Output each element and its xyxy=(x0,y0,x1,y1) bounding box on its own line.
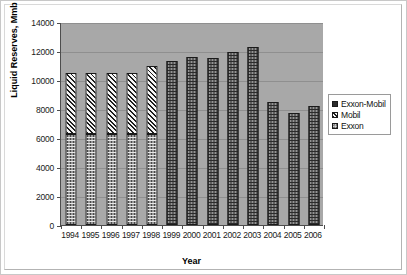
bar-slot xyxy=(203,23,223,225)
y-axis-tick-label: 12000 xyxy=(31,47,54,57)
x-axis-tick-label: 2006 xyxy=(304,230,322,240)
x-axis-tick xyxy=(223,225,224,229)
x-axis-tick xyxy=(142,225,143,229)
x-axis-tick xyxy=(122,225,123,229)
bar[interactable] xyxy=(207,58,218,225)
x-axis-tick xyxy=(101,225,102,229)
x-axis-tick-label: 1999 xyxy=(162,230,180,240)
x-axis-tick-label: 2005 xyxy=(284,230,302,240)
y-axis-tick-label: 10000 xyxy=(31,76,54,86)
bar[interactable] xyxy=(66,73,77,225)
x-axis-tick-label: 2000 xyxy=(183,230,201,240)
x-axis-tick xyxy=(284,225,285,229)
bar-segment-exxonmobil[interactable] xyxy=(248,47,259,225)
x-axis-tick xyxy=(61,225,62,229)
bars-group xyxy=(61,23,323,225)
x-axis-tick-label: 1998 xyxy=(142,230,160,240)
x-axis-tick xyxy=(243,225,244,229)
bar-slot xyxy=(304,23,324,225)
y-axis-tick-label: 14000 xyxy=(31,18,54,28)
bar-segment-exxonmobil[interactable] xyxy=(308,106,319,225)
x-axis-tick xyxy=(81,225,82,229)
bar[interactable] xyxy=(308,106,319,225)
bar-slot xyxy=(81,23,101,225)
bar-segment-exxon[interactable] xyxy=(66,134,77,225)
x-axis-tick-label: 1995 xyxy=(81,230,99,240)
x-axis-tick-label: 1994 xyxy=(61,230,79,240)
y-axis-tick-label: 0 xyxy=(49,221,54,231)
bar-segment-mobil[interactable] xyxy=(147,66,158,134)
bar-segment-exxon[interactable] xyxy=(147,134,158,225)
bar-segment-mobil[interactable] xyxy=(86,73,97,134)
x-axis-tick-label: 1997 xyxy=(122,230,140,240)
y-axis-tick-label: 8000 xyxy=(36,105,54,115)
bar-segment-mobil[interactable] xyxy=(106,73,117,134)
bar-segment-exxonmobil[interactable] xyxy=(227,52,238,225)
legend-label: Exxon xyxy=(341,121,364,131)
bar-segment-exxon[interactable] xyxy=(106,134,117,225)
bar[interactable] xyxy=(147,66,158,226)
bar-slot xyxy=(122,23,142,225)
bar[interactable] xyxy=(86,73,97,225)
x-axis-tick-label: 2004 xyxy=(264,230,282,240)
bar-segment-exxonmobil[interactable] xyxy=(288,113,299,225)
bar-slot xyxy=(162,23,182,225)
bar-slot xyxy=(284,23,304,225)
y-axis-tick-label: 6000 xyxy=(36,134,54,144)
bar-slot xyxy=(61,23,81,225)
bar[interactable] xyxy=(106,73,117,225)
bar[interactable] xyxy=(248,47,259,225)
bar[interactable] xyxy=(288,113,299,225)
x-axis-tick xyxy=(182,225,183,229)
plot-area: 02000400060008000100001200014000 xyxy=(60,23,323,226)
legend-label: Mobil xyxy=(341,110,360,120)
legend-swatch-exxon-icon xyxy=(332,123,338,129)
bar-slot xyxy=(263,23,283,225)
bar[interactable] xyxy=(126,73,137,225)
x-axis-tick xyxy=(162,225,163,229)
legend-item-exxonmobil[interactable]: Exxon-Mobil xyxy=(332,98,386,109)
bar-segment-exxonmobil[interactable] xyxy=(207,58,218,225)
y-axis-tick-label: 4000 xyxy=(36,163,54,173)
x-axis-title: Year xyxy=(60,256,323,266)
bar[interactable] xyxy=(227,52,238,225)
bar-slot xyxy=(142,23,162,225)
x-axis-tick xyxy=(324,225,325,229)
x-axis-tick-label: 2003 xyxy=(243,230,261,240)
x-axis-tick-label: 2001 xyxy=(203,230,221,240)
legend-swatch-mobil-icon xyxy=(332,112,338,118)
chart-legend: Exxon-MobilMobilExxon xyxy=(328,94,391,135)
bar-segment-exxon[interactable] xyxy=(126,134,137,225)
bar-segment-exxonmobil[interactable] xyxy=(187,57,198,225)
chart-figure-frame: Liquid Reserves, Mmb 0200040006000800010… xyxy=(0,0,407,275)
x-axis-tick xyxy=(304,225,305,229)
y-axis-tick-label: 2000 xyxy=(36,192,54,202)
bar-slot xyxy=(243,23,263,225)
bar-slot xyxy=(223,23,243,225)
bar-segment-exxon[interactable] xyxy=(86,134,97,225)
bar[interactable] xyxy=(167,61,178,225)
bar-segment-mobil[interactable] xyxy=(126,73,137,134)
x-axis-tick xyxy=(263,225,264,229)
bar-segment-mobil[interactable] xyxy=(66,73,77,134)
x-axis-tick-label: 2002 xyxy=(223,230,241,240)
bar-segment-exxonmobil[interactable] xyxy=(167,61,178,225)
x-axis-tick xyxy=(203,225,204,229)
legend-item-mobil[interactable]: Mobil xyxy=(332,109,386,120)
legend-label: Exxon-Mobil xyxy=(341,99,386,109)
y-axis-title: Liquid Reserves, Mmb xyxy=(9,0,19,125)
legend-swatch-exxonmobil-icon xyxy=(332,101,338,107)
bar[interactable] xyxy=(187,57,198,225)
bar-slot xyxy=(101,23,121,225)
bar[interactable] xyxy=(268,102,279,225)
bar-segment-exxonmobil[interactable] xyxy=(268,102,279,225)
x-axis-tick-label: 1996 xyxy=(102,230,120,240)
bar-slot xyxy=(182,23,202,225)
legend-item-exxon[interactable]: Exxon xyxy=(332,120,386,131)
